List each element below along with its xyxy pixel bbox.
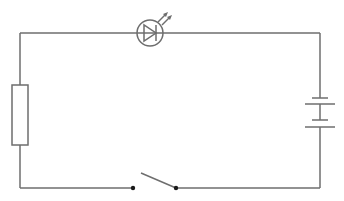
light-emission-arrows-icon xyxy=(158,14,170,25)
circuit-diagram xyxy=(0,0,344,201)
led-symbol xyxy=(137,14,170,46)
switch-symbol xyxy=(131,173,178,190)
switch-contact-left xyxy=(131,186,135,190)
resistor-symbol xyxy=(12,85,28,145)
switch-contact-right xyxy=(174,186,178,190)
switch-lever xyxy=(141,173,176,188)
